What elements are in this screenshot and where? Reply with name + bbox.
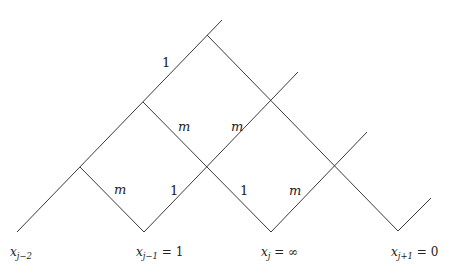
diagram-canvas: 1mmm11m xj−2xj−1 = 1xj = ∞xj+1 = 0 bbox=[0, 0, 454, 275]
edges bbox=[17, 20, 431, 232]
node-value: = 0 bbox=[413, 245, 438, 259]
edge-weight-label: 1 bbox=[162, 55, 170, 70]
node-subscript: j−1 bbox=[141, 251, 158, 261]
node-subscript: j+1 bbox=[396, 251, 413, 261]
node-value: = 1 bbox=[158, 245, 183, 259]
node-label: xj = ∞ bbox=[261, 245, 298, 261]
edge-main-diagonal bbox=[17, 20, 222, 232]
edge-weight-label: 1 bbox=[170, 183, 178, 198]
edge-branch-A bbox=[80, 72, 298, 232]
node-subscript: j−2 bbox=[15, 251, 32, 261]
edge-weight-label: m bbox=[231, 119, 243, 134]
node-label: xj+1 = 0 bbox=[391, 245, 438, 261]
edge-labels: 1mmm11m bbox=[114, 55, 301, 198]
node-value: = ∞ bbox=[270, 245, 298, 259]
edge-weight-label: m bbox=[114, 182, 126, 197]
edge-weight-label: m bbox=[178, 119, 190, 134]
axis-labels: xj−2xj−1 = 1xj = ∞xj+1 = 0 bbox=[10, 245, 438, 261]
edge-branch-B bbox=[143, 102, 367, 232]
edge-weight-label: 1 bbox=[240, 183, 248, 198]
edge-weight-label: m bbox=[289, 183, 301, 198]
node-label: xj−1 = 1 bbox=[136, 245, 183, 261]
node-label: xj−2 bbox=[10, 245, 32, 261]
